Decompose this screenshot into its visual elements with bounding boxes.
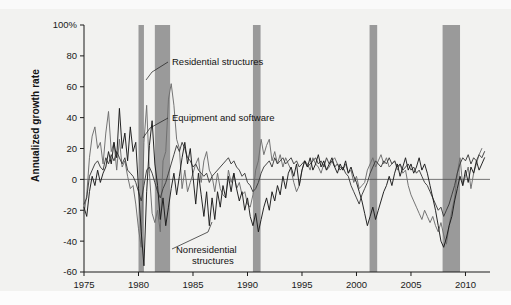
plot-area: 100%806040200-20-40-60 19751980198519901… — [0, 0, 511, 305]
y-tick-label: 80 — [66, 50, 77, 61]
figure-container: Annualized growth rate 100%806040200-20-… — [0, 0, 511, 305]
y-tick-label: -20 — [63, 205, 77, 216]
y-tick-label: -40 — [63, 236, 77, 247]
x-tick-labels-group: 19751980198519901995200020052010 — [73, 272, 476, 290]
recession-band-4 — [370, 25, 378, 272]
x-tick-label: 1990 — [237, 279, 258, 290]
y-tick-label: 100% — [53, 19, 78, 30]
y-tick-label: 60 — [66, 81, 77, 92]
annotation-equipment: Equipment and software — [172, 112, 274, 123]
y-tick-labels-group: 100%806040200-20-40-60 — [53, 19, 84, 277]
x-tick-label: 1995 — [291, 279, 312, 290]
x-tick-label: 1975 — [73, 279, 94, 290]
annotation-residential: Residential structures — [172, 56, 264, 67]
recession-band-5 — [443, 25, 460, 272]
x-tick-label: 1980 — [128, 279, 149, 290]
x-tick-label: 1985 — [182, 279, 203, 290]
x-tick-label: 2005 — [400, 279, 421, 290]
annotation-nonresidential-line2: structures — [192, 255, 234, 266]
y-tick-label: -60 — [63, 266, 77, 277]
x-tick-label: 2000 — [346, 279, 367, 290]
annotation-leader-lines-group — [143, 62, 212, 249]
y-tick-label: 40 — [66, 112, 77, 123]
line-chart-svg: 100%806040200-20-40-60 19751980198519901… — [0, 0, 511, 305]
y-tick-label: 0 — [72, 174, 77, 185]
x-tick-label: 2010 — [455, 279, 476, 290]
y-tick-label: 20 — [66, 143, 77, 154]
data-series-group — [84, 84, 485, 266]
annotation-nonresidential: Nonresidential — [176, 244, 237, 255]
